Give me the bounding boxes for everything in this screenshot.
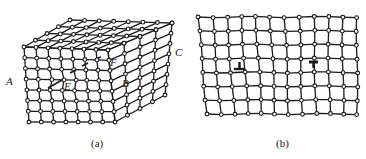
label-f: F <box>110 57 117 68</box>
caption-b: (b) <box>276 138 289 149</box>
figure-canvas <box>0 0 366 159</box>
panel-a-lattice-block <box>22 18 174 124</box>
panel-b-lattice-grid <box>196 15 360 117</box>
positive-edge-dislocation-icon <box>234 62 245 69</box>
label-e: E <box>64 81 71 92</box>
label-c: C <box>175 47 182 58</box>
label-a: A <box>6 76 13 87</box>
negative-edge-dislocation-icon <box>309 62 318 68</box>
caption-a: (a) <box>91 138 103 149</box>
label-b: B <box>122 78 129 89</box>
